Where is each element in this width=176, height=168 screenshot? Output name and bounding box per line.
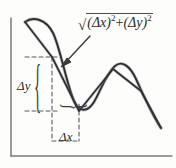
delta-y-brace: { [34,54,41,114]
delta-x-term: Δx [92,15,106,30]
function-curve-shadow [25,19,161,128]
function-curve [25,19,161,128]
delta-x-label: Δx [59,130,72,143]
secant-polyline [25,22,161,128]
pointer-arrow-group [61,36,90,67]
radical-sign: √ [78,17,86,33]
chord-length-label: √(Δx)2+(Δy)2 [78,17,153,32]
curve-group [25,19,161,128]
delta-y-term: Δy [128,15,142,30]
delta-x-brace: { [57,103,88,110]
exponent-2: 2 [147,13,152,23]
delta-y-label: Δy [17,79,30,92]
secant-polyline-shadow [25,22,161,128]
secant-polyline-group [25,22,161,128]
radicand: (Δx)2+(Δy)2 [86,13,152,30]
arc-length-figure: √(Δx)2+(Δy)2 Δy { Δx { [0,0,176,168]
